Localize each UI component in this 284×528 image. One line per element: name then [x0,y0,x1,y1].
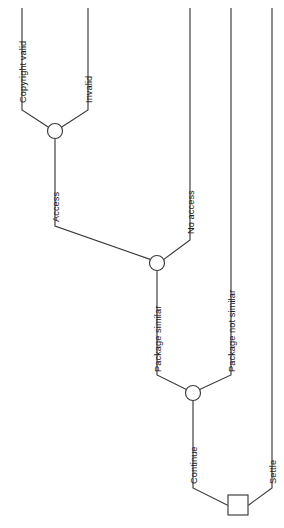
edge-settle [248,8,272,505]
edge-label-continue: Continue [190,446,199,484]
decision-node-2[interactable] [150,256,165,271]
edge-label-package-similar: Package similar [154,306,163,372]
edge-label-package-not-similar: Package not similar [228,290,237,372]
edge-label-copyright-valid: Copyright valid [19,41,28,103]
tree-canvas [0,0,284,528]
decision-node-1[interactable] [48,124,63,139]
edge-label-invalid: Invalid [85,76,94,103]
decision-tree-diagram: Copyright valid Invalid Access No access… [0,0,284,528]
edge-invalid [61,8,88,127]
edge-access [55,139,150,260]
edge-label-settle: Settle [269,460,278,484]
edge-label-no-access: No access [187,190,196,234]
edge-label-access: Access [52,192,61,222]
decision-node-3[interactable] [186,386,201,401]
terminal-node[interactable] [228,495,248,515]
